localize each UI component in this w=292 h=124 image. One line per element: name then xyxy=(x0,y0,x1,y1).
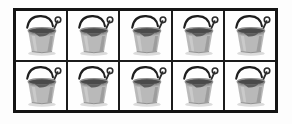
bucket-icon xyxy=(227,63,273,109)
grid-cell-r1c5[interactable]: bucket xyxy=(223,11,275,60)
grid-cell-r2c2[interactable]: bucket xyxy=(66,62,118,111)
grid-row: bucket bucket xyxy=(16,11,275,60)
grid-cell-r1c4[interactable]: bucket xyxy=(171,11,223,60)
bucket-icon xyxy=(175,12,221,58)
grid-cell-r2c3[interactable]: bucket xyxy=(118,62,170,111)
grid-cell-r1c2[interactable]: bucket xyxy=(66,11,118,60)
bucket-icon xyxy=(70,63,116,109)
bucket-icon xyxy=(18,12,64,58)
grid-cell-r2c4[interactable]: bucket xyxy=(171,62,223,111)
bucket-icon xyxy=(18,63,64,109)
bucket-icon xyxy=(227,12,273,58)
bucket-icon xyxy=(123,63,169,109)
grid-cell-r2c1[interactable]: bucket xyxy=(16,62,66,111)
bucket-icon xyxy=(175,63,221,109)
bucket-icon xyxy=(70,12,116,58)
bucket-grid: bucket bucket xyxy=(13,8,278,113)
bucket-icon xyxy=(123,12,169,58)
figure-canvas: bucket bucket xyxy=(0,0,292,124)
grid-row: bucket bucket xyxy=(16,60,275,111)
grid-cell-r1c1[interactable]: bucket xyxy=(16,11,66,60)
grid-cell-r1c3[interactable]: bucket xyxy=(118,11,170,60)
grid-cell-r2c5[interactable]: bucket xyxy=(223,62,275,111)
